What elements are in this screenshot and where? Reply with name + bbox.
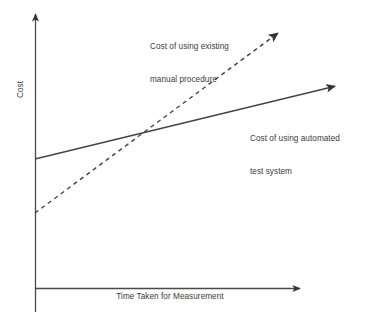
series-label-manual-procedure: Cost of using existing manual procedure <box>150 19 229 107</box>
series-label-automated-test-system: Cost of using automated test system <box>250 111 340 199</box>
series-label-automated-line1: Cost of using automated <box>250 133 340 144</box>
chart-canvas: Cost of using existing manual procedure … <box>0 0 372 318</box>
series-label-automated-line2: test system <box>250 166 340 177</box>
series-label-manual-line2: manual procedure <box>150 74 229 85</box>
x-axis-label: Time Taken for Measurement <box>35 291 305 302</box>
series-label-manual-line1: Cost of using existing <box>150 41 229 52</box>
y-axis-label: Cost <box>15 68 26 112</box>
